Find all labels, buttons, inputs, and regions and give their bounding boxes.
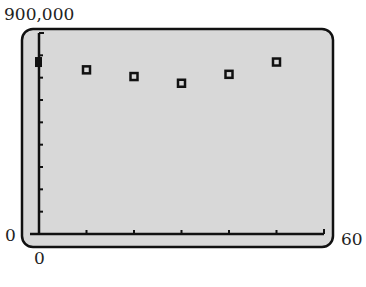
screen-frame xyxy=(22,29,333,247)
data-point-marker xyxy=(83,66,90,73)
calculator-screen-plot xyxy=(0,0,366,287)
data-point-marker xyxy=(35,57,42,67)
data-point-marker xyxy=(226,71,233,78)
data-point-marker xyxy=(178,80,185,87)
data-point-marker xyxy=(273,59,280,66)
data-point-marker xyxy=(131,73,138,80)
